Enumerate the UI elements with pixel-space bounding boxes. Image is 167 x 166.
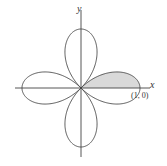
polar-rose-chart xyxy=(0,0,167,166)
point-label: (1, 0) xyxy=(131,91,148,100)
y-axis-label: y xyxy=(77,3,81,14)
shaded-region xyxy=(81,72,140,88)
x-axis-label: x xyxy=(150,79,154,90)
